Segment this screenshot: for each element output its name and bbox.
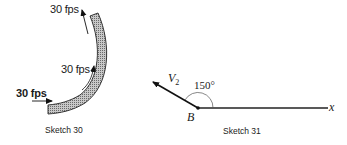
angle-label: 150° [194, 79, 215, 91]
sketch30-caption: Sketch 30 [45, 125, 83, 135]
outlet-velocity-label: 30 fps [50, 3, 79, 15]
vector-label: V2 [168, 71, 179, 87]
angle-arc [185, 92, 213, 108]
inlet-velocity-label: 30 fps [16, 87, 47, 99]
outlet-velocity-arrow [82, 10, 88, 34]
mid-velocity-label: 30 fps [61, 63, 90, 75]
vector-subscript: 2 [175, 78, 179, 87]
sketch31-caption: Sketch 31 [223, 126, 261, 136]
x-axis-label: x [329, 100, 334, 115]
point-b [196, 106, 200, 110]
point-b-label: B [187, 110, 194, 125]
